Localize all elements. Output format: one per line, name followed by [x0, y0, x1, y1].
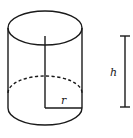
cylinder-diagram: r h — [0, 0, 133, 138]
bottom-ellipse-front — [8, 108, 82, 125]
radius-label: r — [61, 94, 67, 107]
height-label: h — [110, 66, 117, 79]
